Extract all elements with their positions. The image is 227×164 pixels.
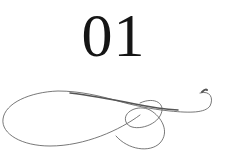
section-number: 01 — [0, 4, 227, 66]
calligraphic-flourish-icon — [0, 80, 227, 164]
